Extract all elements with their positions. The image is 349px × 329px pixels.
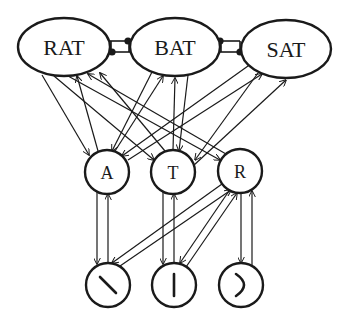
letter-label-t: T — [168, 163, 179, 183]
excitatory-edge-a-to-sat — [128, 74, 262, 160]
letter-node-r: R — [218, 149, 262, 193]
feature-node-curve — [219, 263, 263, 307]
feature-node-vertical — [152, 263, 196, 307]
excitatory-edge-t-to-bat — [173, 78, 175, 150]
word-node-bat: BAT — [130, 18, 220, 76]
feature-node-diagonal — [86, 263, 130, 307]
excitatory-edge-rat-to-t — [54, 76, 154, 160]
feature-node-curve-shape — [219, 263, 263, 307]
word-node-sat: SAT — [241, 20, 331, 78]
letter-node-t: T — [151, 150, 195, 194]
word-label-bat: BAT — [154, 35, 196, 60]
word-node-rat: RAT — [18, 18, 110, 76]
excitatory-edge-r-to-f-vert — [180, 191, 229, 263]
network-diagram: RAT BAT SAT A T R — [0, 0, 349, 329]
word-label-sat: SAT — [266, 37, 306, 62]
letter-node-a: A — [85, 150, 129, 194]
excitatory-edge-sat-to-t — [195, 73, 258, 160]
letter-label-r: R — [234, 162, 246, 182]
word-label-rat: RAT — [43, 35, 85, 60]
excitatory-edge-r-to-f-diag — [112, 184, 222, 263]
letter-label-a: A — [101, 163, 114, 183]
excitatory-edge-rat-to-a — [42, 75, 89, 155]
excitatory-edge-f-diag-to-r — [120, 190, 231, 266]
